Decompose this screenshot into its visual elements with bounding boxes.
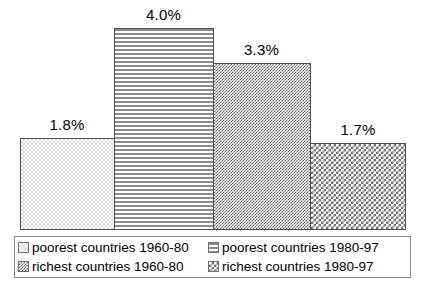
legend-swatch-icon-poorest-1980-97 bbox=[208, 242, 219, 253]
bar-richest-1980-97 bbox=[310, 143, 406, 230]
legend-item-richest-1960-80: richest countries 1960-80 bbox=[18, 260, 208, 274]
legend-label-richest-1980-97: richest countries 1980-97 bbox=[222, 260, 374, 274]
bar-value-label-4: 1.7% bbox=[310, 122, 406, 137]
legend-label-richest-1960-80: richest countries 1960-80 bbox=[32, 260, 184, 274]
legend-label-poorest-1960-80: poorest countries 1960-80 bbox=[32, 241, 189, 255]
bar-value-label-2: 4.0% bbox=[114, 7, 213, 22]
legend-item-richest-1980-97: richest countries 1980-97 bbox=[208, 260, 410, 274]
legend-item-poorest-1980-97: poorest countries 1980-97 bbox=[208, 241, 410, 255]
bar-poorest-1960-80 bbox=[20, 138, 115, 230]
legend-swatch-icon-poorest-1960-80 bbox=[18, 242, 29, 253]
bar-value-label-3: 3.3% bbox=[213, 42, 310, 57]
legend-item-poorest-1960-80: poorest countries 1960-80 bbox=[18, 241, 208, 255]
legend-swatch-icon-richest-1960-80 bbox=[18, 261, 29, 272]
bar-poorest-1980-97 bbox=[114, 28, 214, 230]
bar-chart: 1.8% 4.0% 3.3% 1.7% poorest countries 19… bbox=[0, 0, 427, 297]
chart-legend: poorest countries 1960-80 poorest countr… bbox=[14, 236, 411, 278]
legend-swatch-icon-richest-1980-97 bbox=[208, 261, 219, 272]
bar-richest-1960-80 bbox=[213, 63, 311, 230]
plot-area: 1.8% 4.0% 3.3% 1.7% bbox=[0, 0, 427, 232]
bar-value-label-1: 1.8% bbox=[20, 117, 114, 132]
legend-label-poorest-1980-97: poorest countries 1980-97 bbox=[222, 241, 379, 255]
